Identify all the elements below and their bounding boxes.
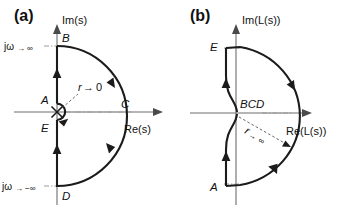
panel-b-radius-note-value: ∞ xyxy=(257,136,267,147)
panel-a-arrow-arc-upper xyxy=(107,78,116,89)
panel-a-radius-note-value: 0 xyxy=(96,81,102,93)
panel-a-large-arc xyxy=(57,46,127,186)
panel-b-point-bcd-label: BCD xyxy=(240,98,264,110)
panel-a-radius-note: r → 0 xyxy=(78,81,102,93)
panel-a-label: (a) xyxy=(14,7,34,24)
panel-a-limit-bottom-symbol: jω xyxy=(1,181,12,192)
panel-b: (b) Im(L(s)) Re(L(s)) E BCD A r → ∞ xyxy=(176,0,352,223)
panel-a-point-c-label: C xyxy=(121,98,130,110)
panel-a-imaginary-axis-label: Im(s) xyxy=(62,14,87,26)
panel-a-limit-top-arrow: → xyxy=(17,44,25,53)
panel-b-real-axis-label: Re(L(s)) xyxy=(286,125,326,137)
panel-a-point-d-label: D xyxy=(62,190,70,202)
panel-b-radius-leader-head xyxy=(282,141,291,147)
nyquist-contour-figure: (a) Im(s) Re(s) B A E C D r → 0 jω → ∞ j… xyxy=(0,0,352,223)
panel-b-radius-note: r → ∞ xyxy=(243,124,269,146)
panel-b-label: (b) xyxy=(190,7,210,24)
panel-b-imaginary-axis-label: Im(L(s)) xyxy=(242,14,281,26)
panel-a-limit-top-value: ∞ xyxy=(27,44,33,53)
panel-a-point-a-label: A xyxy=(40,94,49,106)
panel-b-arrow-upper-branch xyxy=(222,78,231,88)
panel-b-real-axis xyxy=(190,109,312,117)
panel-a-real-axis-label: Re(s) xyxy=(124,123,151,135)
panel-a-limit-top-symbol: jω xyxy=(3,41,14,52)
panel-b-point-e-label: E xyxy=(210,41,218,53)
panel-b-branch-origin-to-e xyxy=(226,48,237,112)
panel-a-limit-bottom: jω → −∞ xyxy=(1,181,36,193)
panel-a-arrow-arc-lower xyxy=(106,143,115,154)
panel-b-point-a-label: A xyxy=(209,181,218,193)
panel-a-limit-bottom-value: −∞ xyxy=(25,184,36,193)
panel-a-limit-top: jω → ∞ xyxy=(3,41,33,53)
panel-a-limit-bottom-arrow: → xyxy=(15,184,23,193)
panel-a-radius-leader xyxy=(62,94,78,108)
panel-a: (a) Im(s) Re(s) B A E C D r → 0 jω → ∞ j… xyxy=(0,0,176,223)
panel-a-arrow-upper-segment xyxy=(53,68,62,78)
panel-b-arrow-lower-branch xyxy=(222,151,231,161)
panel-b-branch-a-to-origin xyxy=(226,114,237,186)
panel-a-point-b-label: B xyxy=(62,32,70,44)
panel-a-arrow-lower-segment xyxy=(53,144,62,154)
panel-a-point-e-label: E xyxy=(41,122,49,134)
panel-a-radius-note-arrow: → xyxy=(83,81,94,93)
